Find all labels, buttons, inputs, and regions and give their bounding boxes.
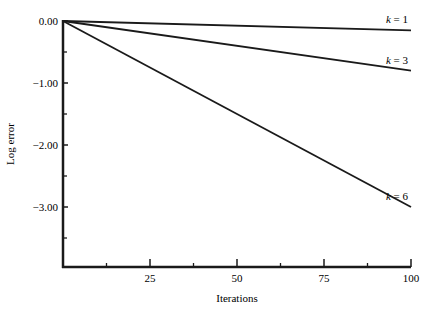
axes <box>62 20 411 268</box>
series-label-k1: k = 1 <box>386 13 408 25</box>
y-axis-title: Log error <box>4 123 16 165</box>
x-axis-title: Iterations <box>216 292 258 304</box>
ticks <box>63 21 411 267</box>
series-line-k6 <box>63 21 411 207</box>
y-tick-label: −2.00 <box>33 139 59 151</box>
x-tick-label: 100 <box>403 272 420 284</box>
series-labels: k = 1k = 3k = 6 <box>386 13 409 202</box>
y-tick-label: 0.00 <box>39 15 59 27</box>
series-lines <box>63 21 411 207</box>
series-label-k6: k = 6 <box>386 190 409 202</box>
series-label-k3: k = 3 <box>386 54 409 66</box>
tick-labels: 2550751000.00−1.00−2.00−3.00 <box>33 15 420 284</box>
y-tick-label: −1.00 <box>33 77 59 89</box>
x-tick-label: 50 <box>232 272 244 284</box>
log-error-chart: 2550751000.00−1.00−2.00−3.00 Iterations … <box>0 0 434 315</box>
y-tick-label: −3.00 <box>33 201 59 213</box>
x-tick-label: 75 <box>319 272 331 284</box>
x-tick-label: 25 <box>145 272 157 284</box>
